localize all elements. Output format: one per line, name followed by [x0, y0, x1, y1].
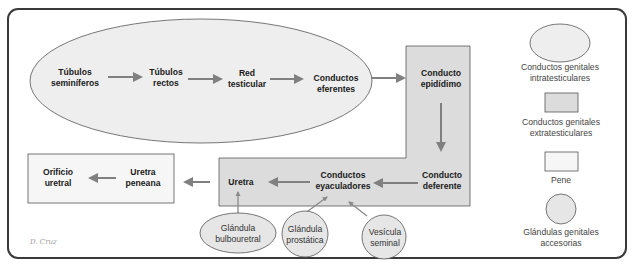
node-conductos-eyaculadores: Conductoseyaculadores: [316, 170, 371, 191]
node-conducto-epididimo: Conductoepidídimo: [421, 68, 462, 89]
legend-label-intratesticular: Conductos genitalesintratesticulares: [521, 62, 599, 83]
gland-bulbouretral: [200, 213, 276, 253]
reproductive-duct-diagram: Túbulosseminíferos Túbulosrectos Redtest…: [0, 0, 634, 274]
legend-label-extratesticular: Conductos genitalesextratesticulares: [522, 117, 600, 138]
legend-swatch-pene: [545, 152, 578, 171]
node-tubulos-rectos: Túbulosrectos: [149, 67, 183, 88]
legend-swatch-extratesticular: [545, 93, 578, 112]
legend-swatch-glandulas: [546, 194, 576, 224]
node-conducto-deferente: Conductodeferente: [422, 170, 462, 191]
gland-prostatica: [282, 211, 328, 257]
label-gland-bulbouretral: Glándulabulbouretral: [215, 223, 260, 244]
label-gland-prostatica: Glándulaprostática: [286, 224, 323, 245]
legend-label-pene: Pene: [551, 175, 571, 185]
node-uretra-peneana: Uretrapeneana: [126, 167, 161, 188]
node-conductos-eferentes: Conductoseferentes: [314, 73, 359, 94]
author-signature: D. Cruz: [29, 238, 57, 246]
gland-vesicula-seminal: [362, 215, 406, 259]
node-uretra: Uretra: [228, 177, 254, 187]
label-vesicula-seminal: Vesículaseminal: [369, 227, 402, 248]
node-orificio-uretral: Orificiouretral: [43, 167, 73, 188]
legend-swatch-intratesticular: [530, 24, 590, 62]
